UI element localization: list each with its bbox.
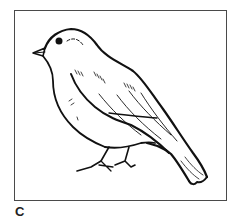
figure-label: C (15, 204, 24, 219)
figure-frame (14, 10, 227, 201)
bird-illustration (15, 11, 228, 202)
